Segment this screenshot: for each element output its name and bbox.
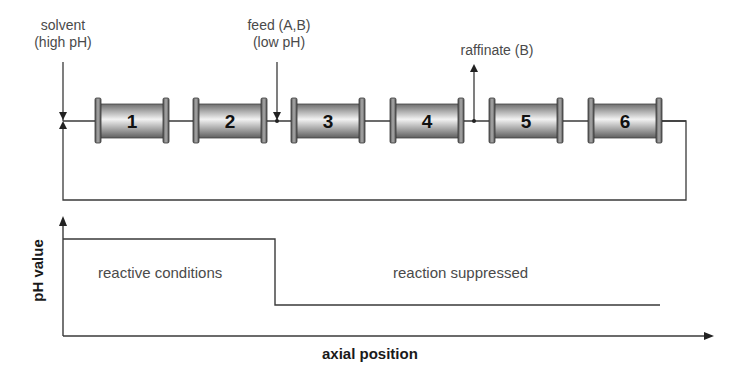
svg-text:1: 1 <box>127 111 138 132</box>
svg-text:3: 3 <box>323 111 334 132</box>
feed-label-line1: feed (A,B) <box>236 17 322 34</box>
column-3: 3 <box>291 98 365 143</box>
region-suppressed-label: reaction suppressed <box>393 264 528 281</box>
raffinate-label: raffinate (B) <box>436 42 558 59</box>
column-1: 1 <box>95 98 169 143</box>
x-axis-label: axial position <box>322 345 418 362</box>
column-2: 2 <box>193 98 267 143</box>
svg-text:2: 2 <box>225 111 236 132</box>
column-6: 6 <box>588 98 662 143</box>
solvent-label: solvent (high pH) <box>30 17 96 51</box>
x-axis-arrow-icon <box>704 332 714 340</box>
smb-process-diagram: 123456 <box>0 0 738 378</box>
solvent-label-line2: (high pH) <box>30 34 96 51</box>
y-axis-arrow-icon <box>59 216 67 226</box>
solvent-label-line1: solvent <box>30 17 96 34</box>
feed-arrow-icon <box>273 112 281 120</box>
column-5: 5 <box>489 98 563 143</box>
raffinate-arrow-icon <box>470 64 478 72</box>
feed-label: feed (A,B) (low pH) <box>236 17 322 51</box>
svg-text:6: 6 <box>620 111 631 132</box>
svg-text:4: 4 <box>422 111 433 132</box>
svg-text:5: 5 <box>521 111 532 132</box>
region-reactive-label: reactive conditions <box>98 264 222 281</box>
y-axis-label: pH value <box>29 236 46 306</box>
feed-label-line2: (low pH) <box>236 34 322 51</box>
column-4: 4 <box>390 98 464 143</box>
